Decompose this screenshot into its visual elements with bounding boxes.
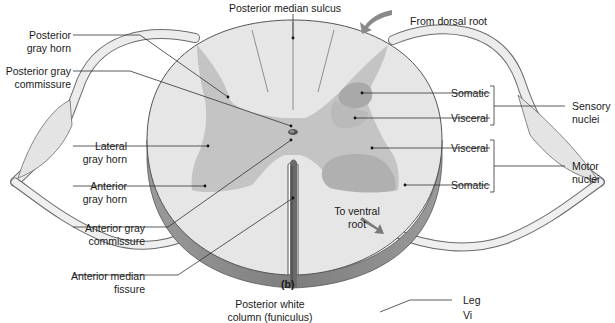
- label-posterior-gray-commissure: Posterior gray commissure: [0, 65, 71, 90]
- label-posterior-gray-horn: Posterior gray horn: [0, 29, 71, 54]
- label-somatic-motor: Somatic: [451, 179, 489, 192]
- label-visceral-motor: Visceral: [451, 142, 488, 155]
- label-anterior-gray-horn: Anterior gray horn: [0, 180, 127, 205]
- label-from-dorsal-root: From dorsal root: [410, 15, 487, 28]
- dorsal-root-arrow-icon: [360, 10, 392, 34]
- label-to-ventral-root: To ventral root: [326, 205, 388, 230]
- label-motor-nuclei: Motor nuclei: [572, 160, 599, 185]
- label-visceral-sensory: Visceral: [451, 112, 488, 125]
- label-posterior-median-sulcus: Posterior median sulcus: [229, 2, 341, 15]
- label-sensory-nuclei: Sensory nuclei: [572, 100, 611, 125]
- label-anterior-gray-commissure: Anterior gray commissure: [0, 222, 145, 247]
- anterior-median-fissure-shape: [290, 160, 297, 289]
- label-anterior-median-fissure: Anterior median fissure: [0, 270, 145, 295]
- label-lateral-gray-horn: Lateral gray horn: [0, 140, 127, 165]
- label-cut-off: Vi: [463, 309, 472, 322]
- panel-label: (b): [281, 278, 294, 291]
- label-leg: Leg: [463, 294, 481, 307]
- label-somatic-sensory: Somatic: [451, 87, 489, 100]
- label-posterior-white-column: Posterior white column (funiculus): [210, 298, 330, 323]
